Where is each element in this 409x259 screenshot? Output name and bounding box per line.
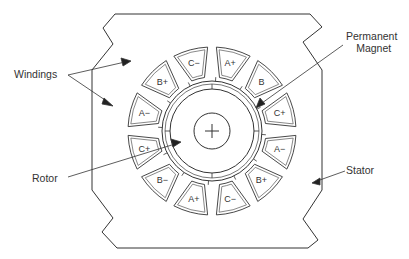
stator-leader: [317, 171, 345, 181]
winding-slot-label: B: [258, 77, 264, 87]
winding-slot-label: C+: [139, 144, 151, 154]
motor-diagram: C−A+BC+A−B+C−A+B−C+A−B+: [0, 0, 409, 259]
arrowhead-icon: [102, 98, 113, 106]
leader-lines: [68, 45, 345, 185]
winding-slot: B+: [245, 159, 282, 201]
stator-label: Stator: [346, 164, 374, 176]
arrowhead-icon: [171, 139, 181, 147]
winding-slot-label: A−: [274, 144, 285, 154]
arrowhead-icon: [256, 98, 265, 108]
winding-slot: C−: [216, 176, 250, 215]
arrowhead-icon: [121, 58, 131, 66]
arrowhead-icon: [312, 178, 320, 185]
rotor-label: Rotor: [32, 172, 58, 184]
winding-slot-label: A+: [224, 58, 235, 68]
rotor-leader: [68, 144, 175, 177]
winding-slot: A+: [215, 47, 250, 81]
winding-slot: A+: [174, 181, 209, 215]
winding-slot-label: B+: [256, 175, 267, 185]
permanent-magnet-label-line1: Permanent: [346, 30, 397, 42]
winding-slot-label: A−: [139, 108, 150, 118]
winding-slot-label: A+: [188, 194, 199, 204]
winding-slot: A−: [262, 134, 296, 169]
winding-slot: A−: [128, 93, 162, 128]
winding-slot-label: C−: [188, 58, 200, 68]
winding-slot: C+: [257, 93, 296, 127]
winding-slot-label: B+: [157, 77, 168, 87]
windings-leader-2: [68, 75, 108, 102]
winding-slot-label: B−: [157, 175, 168, 185]
permanent-magnet-label-line2: Magnet: [346, 42, 397, 54]
windings-label: Windings: [14, 68, 57, 80]
winding-slot: B+: [142, 61, 179, 103]
winding-slot-label: C−: [224, 194, 236, 204]
shaft-center-cross-icon: [205, 124, 219, 138]
winding-slot-label: C+: [274, 108, 286, 118]
permanent-magnet-label: Permanent Magnet: [346, 30, 397, 54]
winding-slot: B: [240, 61, 282, 98]
winding-slot: B−: [142, 164, 184, 201]
winding-slot: C−: [174, 47, 208, 86]
